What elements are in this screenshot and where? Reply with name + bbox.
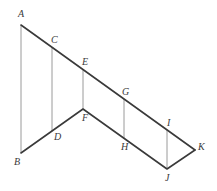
label-F: F [81, 112, 89, 123]
label-I: I [166, 117, 171, 128]
label-B: B [14, 156, 20, 167]
label-A: A [17, 8, 25, 19]
label-D: D [53, 131, 62, 142]
label-G: G [122, 86, 129, 97]
geometry-diagram: A B C D E F G H I J K [0, 0, 217, 191]
label-K: K [197, 141, 206, 152]
label-H: H [120, 141, 129, 152]
segment-AK [21, 25, 195, 150]
label-J: J [165, 172, 170, 183]
label-E: E [81, 56, 88, 67]
label-C: C [51, 34, 58, 45]
